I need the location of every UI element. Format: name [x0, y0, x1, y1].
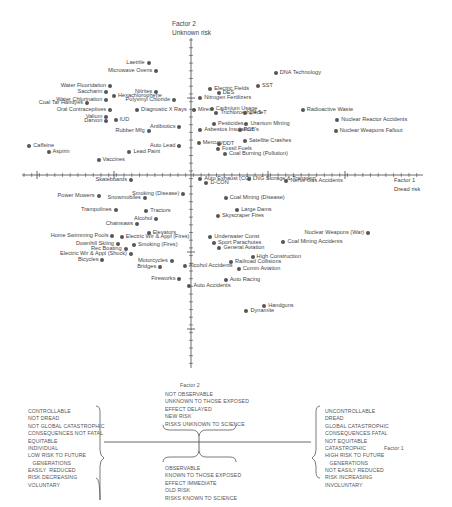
data-point-label: Comm Aviation: [243, 266, 281, 272]
data-point-label: D-CON: [210, 180, 228, 186]
data-point-label: Auto Accidents: [193, 283, 230, 289]
data-point-label: Nuclear Weapons (War): [304, 230, 364, 236]
data-point-label: Saccharin: [77, 89, 102, 95]
data-point-label: Laetrile: [126, 60, 144, 66]
risk-perception-chart: Factor 2 Unknown risk Factor 1 Dread ris…: [0, 0, 452, 507]
legend-left-block: CONTROLLABLE NOT DREAD NOT GLOBAL CATAST…: [28, 408, 104, 489]
data-point-marker: [108, 108, 112, 112]
legend-bottom-block: OBSERVABLE KNOWN TO THOSE EXPOSED EFFECT…: [165, 465, 241, 502]
data-point-marker: [135, 108, 139, 112]
data-point-marker: [197, 141, 201, 145]
data-point-label: Smoking (Disease): [132, 191, 179, 197]
data-point-marker: [366, 231, 370, 235]
data-point-marker: [104, 98, 108, 102]
data-point-label: Radioactive Waste: [307, 107, 353, 113]
data-point-label: Home Swimming Pools: [51, 233, 109, 239]
data-point-label: Nuclear Weapons Fallout: [340, 128, 403, 134]
data-point-label: Railroad Collisions: [235, 259, 281, 265]
data-point-marker: [135, 222, 139, 226]
data-point-label: Oral Contraceptives: [57, 107, 106, 113]
factor2-axis-title: Factor 2 Unknown risk: [172, 20, 211, 38]
data-point-label: Coal Mining (Disease): [230, 195, 285, 201]
factor1-legend-label: Factor 1: [384, 445, 404, 452]
data-point-label: Vaccines: [103, 157, 125, 163]
data-point-marker: [256, 84, 260, 88]
data-point-label: Alcohol Accidents: [189, 263, 233, 269]
data-point-label: Nerve Gas Accidents: [290, 178, 342, 184]
data-point-label: Bicycles: [78, 257, 99, 263]
data-point-marker: [217, 142, 221, 146]
data-point-label: Coal Mining Accidents: [287, 239, 342, 245]
data-point-label: Nitrogen Fertilizers: [204, 95, 251, 101]
data-point-label: Antibiotics: [150, 124, 176, 130]
data-point-label: 2,4,5-T: [249, 110, 267, 116]
factor2-title-line1: Factor 2: [172, 20, 211, 29]
data-point-marker: [216, 214, 220, 218]
data-point-marker: [237, 267, 241, 271]
factor2-legend-label: Factor 2: [180, 382, 200, 389]
data-point-label: SST: [262, 83, 273, 89]
data-point-marker: [47, 150, 51, 154]
data-point-marker: [301, 108, 305, 112]
data-point-label: Skateboards: [96, 177, 127, 183]
data-point-label: IUD: [120, 117, 130, 123]
data-point-marker: [335, 118, 339, 122]
data-point-label: Rubber Mfg: [115, 128, 144, 134]
factor1-title-line2: Dread risk: [394, 185, 420, 194]
data-point-label: Nuclear Reactor Accidents: [341, 117, 407, 123]
data-point-label: General Aviation: [223, 245, 264, 251]
data-point-label: Darvon: [84, 118, 102, 124]
factor1-title-line1: Factor 1: [394, 176, 420, 185]
data-point-marker: [212, 241, 216, 245]
bottom-brace: [163, 451, 236, 462]
data-point-marker: [274, 71, 278, 75]
data-point-marker: [172, 98, 176, 102]
data-point-label: Diagnostic X Rays: [141, 107, 187, 113]
data-point-marker: [210, 107, 214, 111]
factor1-axis-title: Factor 1 Dread risk: [394, 176, 420, 195]
data-point-marker: [208, 87, 212, 91]
data-point-label: Aspirin: [53, 149, 70, 155]
data-point-label: Chainsaws: [106, 221, 133, 227]
data-point-label: Lead Paint: [133, 149, 160, 155]
data-point-label: Coal Burning (Pollution): [229, 151, 288, 157]
data-point-label: DNA Technology: [280, 70, 321, 76]
data-point-label: Skyscraper Fires: [222, 213, 264, 219]
data-point-label: Microwave Ovens: [108, 68, 152, 74]
data-point-marker: [183, 264, 187, 268]
data-point-label: Satellite Crashes: [249, 138, 291, 144]
data-point-marker: [216, 147, 220, 151]
data-point-marker: [334, 129, 338, 133]
data-point-marker: [247, 177, 251, 181]
data-point-marker: [114, 208, 118, 212]
data-point-marker: [97, 194, 101, 198]
data-point-label: Smoking (Fires): [138, 242, 177, 248]
data-point-label: Caffeine: [33, 143, 54, 149]
data-point-marker: [97, 158, 101, 162]
data-point-marker: [224, 196, 228, 200]
data-point-label: Bridges: [137, 264, 156, 270]
legend-top-block: NOT OBSERVABLE UNKNOWN TO THOSE EXPOSED …: [165, 391, 249, 428]
right-brace: [312, 406, 320, 478]
data-point-label: Power Mowers: [58, 193, 95, 199]
data-point-label: Polyvinyl Chloride: [126, 97, 170, 103]
data-point-marker: [170, 259, 174, 263]
factor2-title-line2: Unknown risk: [172, 29, 211, 38]
data-point-marker: [243, 139, 247, 143]
data-point-label: Auto Racing: [230, 277, 260, 283]
data-point-label: Trampolines: [81, 207, 112, 213]
data-point-marker: [114, 118, 118, 122]
data-point-label: Dynamite: [250, 308, 274, 314]
data-point-marker: [238, 128, 242, 132]
data-point-label: Alcohol: [134, 216, 152, 222]
legend-right-block: UNCONTROLLABLE DREAD GLOBAL CATASTROPHIC…: [325, 408, 389, 489]
data-point-label: Tractors: [150, 208, 170, 214]
data-point-label: PCB's: [244, 127, 259, 133]
data-point-label: Fireworks: [151, 276, 175, 282]
data-point-marker: [147, 129, 151, 133]
data-point-label: Electric Wir & Appl (Fires): [126, 234, 190, 240]
